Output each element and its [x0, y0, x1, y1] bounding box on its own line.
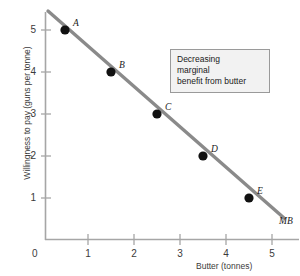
data-point-label-d: D — [211, 144, 218, 154]
data-point-b — [106, 67, 115, 76]
annotation-line-1: Decreasing — [177, 54, 264, 65]
data-point-d — [198, 151, 207, 160]
data-point-label-a: A — [73, 18, 79, 28]
data-point-label-b: B — [119, 60, 125, 70]
data-point-c — [152, 109, 161, 118]
data-point-label-c: C — [165, 102, 171, 112]
y-axis-title: Willingness to pay (guns per tonne) — [22, 28, 32, 198]
x-tick-label-1: 1 — [81, 248, 95, 259]
marginal-benefit-chart: 5 4 3 2 1 0 1 2 3 4 5 A B C D E MB Willi… — [0, 0, 300, 276]
annotation-box: Decreasing marginal benefit from butter — [170, 49, 270, 93]
x-tick-label-4: 4 — [219, 248, 233, 259]
annotation-line-3: benefit from butter — [177, 76, 264, 87]
x-tick-label-5: 5 — [265, 248, 279, 259]
mb-curve — [48, 11, 284, 218]
x-tick-label-3: 3 — [173, 248, 187, 259]
origin-label: 0 — [32, 248, 38, 259]
data-point-a — [60, 25, 69, 34]
mb-curve-label: MB — [279, 216, 293, 226]
data-point-e — [244, 193, 253, 202]
x-axis-title: Butter (tonnes) — [196, 261, 252, 271]
x-tick-label-2: 2 — [127, 248, 141, 259]
plot-area — [0, 0, 300, 276]
annotation-line-2: marginal — [177, 65, 264, 76]
data-point-label-e: E — [257, 186, 263, 196]
